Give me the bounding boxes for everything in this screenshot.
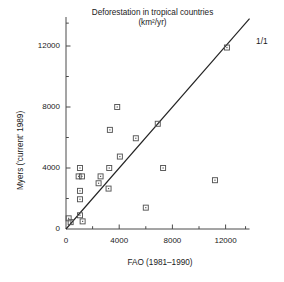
chart-figure: Deforestation in tropical countries (km²… <box>0 0 284 282</box>
data-point-center <box>81 176 82 177</box>
data-point-center <box>157 123 158 124</box>
data-point-center <box>68 218 69 219</box>
x-tick-label: 12000 <box>206 236 246 245</box>
data-point-center <box>135 138 136 139</box>
data-point-center <box>162 167 163 168</box>
data-point-center <box>119 156 120 157</box>
data-point-center <box>145 207 146 208</box>
y-tick-label: 8000 <box>18 102 60 111</box>
y-tick-label: 4000 <box>18 163 60 172</box>
data-point-center <box>108 188 109 189</box>
data-point-center <box>79 215 80 216</box>
data-point-center <box>109 129 110 130</box>
data-point-center <box>79 167 80 168</box>
data-point-center <box>214 180 215 181</box>
y-tick-label: 0 <box>18 224 60 233</box>
y-tick-label: 12000 <box>18 41 60 50</box>
data-point-center <box>100 176 101 177</box>
x-tick-label: 4000 <box>99 236 139 245</box>
data-point-center <box>98 183 99 184</box>
data-point-center <box>117 106 118 107</box>
data-point-center <box>82 221 83 222</box>
data-point-center <box>226 47 227 48</box>
data-point-center <box>79 199 80 200</box>
data-point-center <box>79 190 80 191</box>
x-tick-label: 8000 <box>152 236 192 245</box>
data-point-center <box>70 222 71 223</box>
x-tick-label: 0 <box>46 236 86 245</box>
data-point-center <box>109 167 110 168</box>
